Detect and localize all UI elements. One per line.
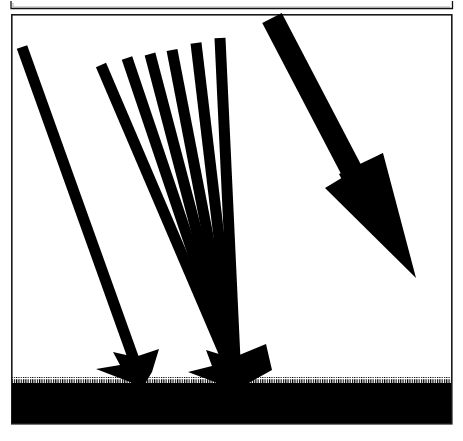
figure-canvas (0, 0, 463, 441)
ground-body (12, 383, 451, 423)
figure-root: Ray diagram: converging ray fan, single … (0, 0, 463, 441)
ground-serration (12, 377, 451, 384)
ground-plane (12, 377, 451, 423)
